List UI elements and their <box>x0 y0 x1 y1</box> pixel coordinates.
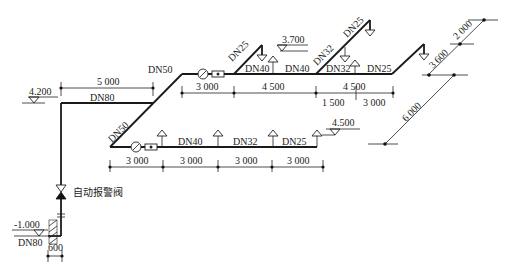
svg-text:DN32: DN32 <box>233 136 257 147</box>
svg-text:3 000: 3 000 <box>196 81 219 92</box>
svg-text:DN50: DN50 <box>106 119 131 144</box>
sprinkler-up-icon <box>157 130 167 147</box>
sprinkler-down-icon <box>365 30 375 36</box>
sprinkler-up-icon <box>312 130 322 147</box>
dimension-lower: 3 000 3 000 3 000 3 000 <box>108 155 324 172</box>
sprinkler-up-icon <box>268 56 278 74</box>
elevation-marker-top: 4.200 <box>22 86 58 103</box>
svg-text:3 000: 3 000 <box>180 155 203 166</box>
elevation-marker-bottom: -1.000 <box>12 219 48 236</box>
svg-text:2 000: 2 000 <box>451 18 475 42</box>
svg-text:3 000: 3 000 <box>287 155 310 166</box>
svg-text:3 000: 3 000 <box>363 97 386 108</box>
dimension-upper: 3 000 4 500 4 500 1 500 3 000 <box>180 81 394 108</box>
sprinkler-up-icon <box>350 60 360 74</box>
sprinkler-up-icon <box>213 130 223 147</box>
svg-text:DN40: DN40 <box>245 63 269 74</box>
svg-text:4 500: 4 500 <box>343 81 366 92</box>
svg-text:DN40: DN40 <box>285 63 309 74</box>
dimension-bottom: 600 <box>46 242 63 262</box>
svg-text:DN25: DN25 <box>367 63 391 74</box>
svg-text:3 000: 3 000 <box>235 155 258 166</box>
svg-text:4 500: 4 500 <box>262 81 285 92</box>
svg-text:DN80: DN80 <box>18 237 42 248</box>
upper-diagonal-3 <box>392 44 424 74</box>
svg-text:DN25: DN25 <box>282 136 306 147</box>
piping-system-diagram: 自动报警阀 4.200 3.700 4.500 -1.000 DN80 DN50… <box>0 0 510 273</box>
svg-text:6 000: 6 000 <box>400 100 424 124</box>
svg-text:3 000: 3 000 <box>126 155 149 166</box>
svg-text:600: 600 <box>48 242 63 253</box>
svg-text:DN80: DN80 <box>90 92 114 103</box>
svg-text:4.500: 4.500 <box>332 117 355 128</box>
svg-text:DN40: DN40 <box>178 136 202 147</box>
svg-text:3 600: 3 600 <box>427 47 451 71</box>
dimension-right: 2 000 3 600 6 000 <box>368 18 498 146</box>
svg-text:DN32: DN32 <box>326 63 350 74</box>
alarm-valve-label: 自动报警阀 <box>73 186 123 198</box>
svg-text:DN50: DN50 <box>148 64 172 75</box>
elevation-marker-lower: 4.500 <box>322 117 360 135</box>
svg-text:1 500: 1 500 <box>322 97 345 108</box>
sprinkler-down-icon <box>419 54 429 60</box>
svg-text:4.200: 4.200 <box>29 86 52 97</box>
sprinkler-down-icon <box>257 55 267 61</box>
wall-hatch <box>49 220 57 244</box>
sprinkler-up-icon <box>268 130 278 147</box>
elevation-marker-upper: 3.700 <box>277 34 308 51</box>
svg-text:-1.000: -1.000 <box>14 219 40 230</box>
svg-text:3.700: 3.700 <box>282 34 305 45</box>
svg-text:5 000: 5 000 <box>97 76 120 87</box>
